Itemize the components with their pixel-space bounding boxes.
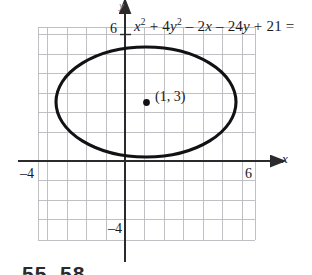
center-point-label: (1, 3) (155, 90, 185, 104)
equation-op-3: – 24 (212, 18, 243, 34)
equation-term-y1: y (170, 18, 177, 34)
tick-label-x-negative-4: –4 (20, 167, 34, 181)
equation-term-y2: y (243, 18, 250, 34)
tick-label-y-6: 6 (110, 22, 117, 36)
figure-root: y x 6 –4 –4 6 (1, 3) x2 + 4y2 – 2x – 24y… (0, 0, 312, 275)
equation-op-2: – 2 (182, 18, 205, 34)
tick-label-y-negative-4: –4 (108, 222, 122, 236)
x-axis-label: x (282, 152, 288, 165)
equation-op-4: + 21 = (250, 18, 295, 34)
y-axis-label: y (119, 0, 124, 11)
center-point-marker (143, 99, 150, 106)
axis-lines (18, 12, 272, 262)
equation-term-x1: x (134, 18, 141, 34)
equation-op-1: + 4 (146, 18, 170, 34)
graph-canvas (0, 0, 312, 275)
figure-number-label: 55–58 (22, 262, 85, 275)
tick-label-x-6: 6 (245, 167, 252, 181)
equation-label: x2 + 4y2 – 2x – 24y + 21 = (134, 19, 295, 34)
